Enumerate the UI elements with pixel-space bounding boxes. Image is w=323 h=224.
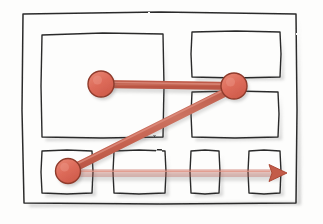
node-bottom-left[interactable] bbox=[56, 159, 81, 184]
sketch-svg bbox=[0, 0, 323, 224]
sketch-canvas bbox=[0, 0, 323, 224]
node-left[interactable] bbox=[88, 71, 114, 97]
connector-left-to-hub[interactable] bbox=[101, 82, 234, 86]
node-hub[interactable] bbox=[221, 73, 247, 99]
